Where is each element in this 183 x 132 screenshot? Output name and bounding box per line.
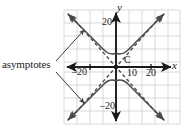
x-tick-label-20: 20 <box>146 68 156 78</box>
x-tick-label-10: 10 <box>127 68 137 78</box>
y-tick-label-20: 20 <box>102 17 112 27</box>
asymptotes-annotation-label: asymptotes <box>2 59 51 70</box>
y-tick-label-neg20: –20 <box>100 101 115 111</box>
hyperbola-figure: asymptotes –20 10 20 20 –20 x y C <box>0 0 183 132</box>
x-axis-label: x <box>172 60 177 71</box>
x-tick-label-neg20: –20 <box>72 67 87 77</box>
y-axis-label: y <box>117 2 122 13</box>
leader-line-upper <box>56 30 84 61</box>
center-point-label: C <box>124 55 131 65</box>
center-point <box>114 65 119 70</box>
